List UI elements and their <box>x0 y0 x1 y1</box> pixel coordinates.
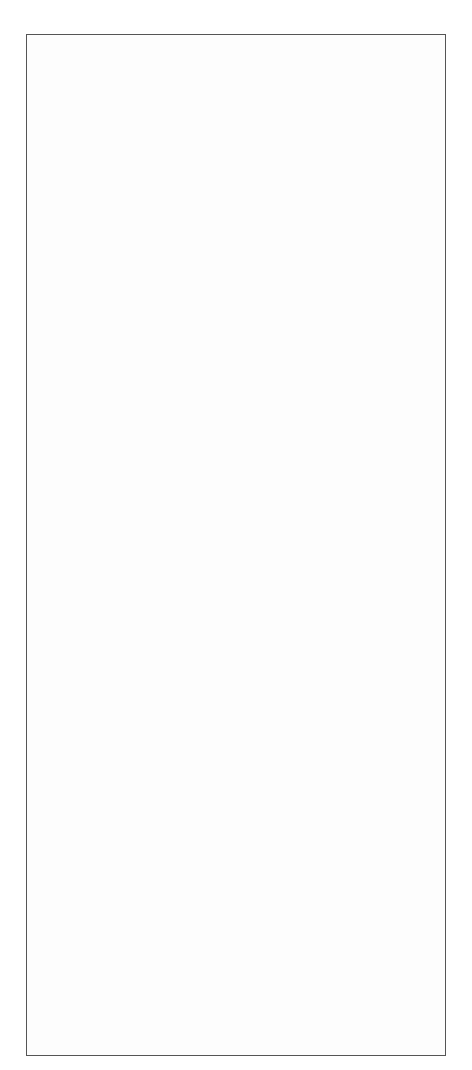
stacked-3d-column <box>0 0 472 1070</box>
